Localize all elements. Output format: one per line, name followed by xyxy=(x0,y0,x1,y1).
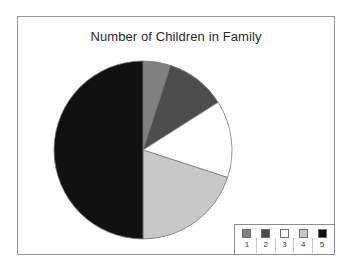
legend-swatch-5 xyxy=(318,229,327,238)
chart-title: Number of Children in Family xyxy=(18,29,334,44)
legend-swatch-2 xyxy=(261,229,270,238)
legend-item-2[interactable]: 2 xyxy=(257,227,275,253)
pie-chart xyxy=(52,59,234,241)
legend-item-4[interactable]: 4 xyxy=(294,227,312,253)
legend-item-5[interactable]: 5 xyxy=(313,227,331,253)
legend-swatch-4 xyxy=(299,229,308,238)
legend-swatch-3 xyxy=(280,229,289,238)
chart-frame: Number of Children in Family 12345 xyxy=(17,16,335,255)
pie-svg xyxy=(52,59,234,241)
legend-label-2: 2 xyxy=(263,240,267,250)
pie-slice-5 xyxy=(54,61,143,239)
chart-legend: 12345 xyxy=(234,224,335,255)
legend-label-5: 5 xyxy=(320,240,324,250)
legend-label-3: 3 xyxy=(282,240,286,250)
legend-label-1: 1 xyxy=(245,240,249,250)
legend-item-1[interactable]: 1 xyxy=(238,227,256,253)
legend-swatch-1 xyxy=(242,229,251,238)
legend-label-4: 4 xyxy=(301,240,305,250)
pie-slice-group xyxy=(54,61,232,239)
legend-item-3[interactable]: 3 xyxy=(276,227,294,253)
